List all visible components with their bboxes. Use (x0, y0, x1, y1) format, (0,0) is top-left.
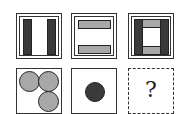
cell-r2c2 (71, 68, 117, 114)
cell-r1c1 (16, 13, 62, 59)
horizontal-grey-bar (78, 20, 111, 29)
grey-circle (38, 71, 59, 92)
cell-r2c1 (16, 68, 62, 114)
vertical-dark-bar (134, 19, 143, 55)
horizontal-grey-bar (135, 46, 168, 55)
vertical-dark-bar (47, 19, 56, 55)
horizontal-grey-bar (78, 45, 111, 54)
horizontal-grey-bar (135, 19, 168, 28)
grey-circle (19, 71, 40, 92)
cell-r1c2 (71, 13, 117, 59)
answer-cell[interactable]: ? (128, 68, 174, 114)
dark-circle (85, 82, 105, 102)
grey-circle (38, 91, 59, 112)
vertical-dark-bar (23, 19, 32, 55)
cell-r1c3 (128, 13, 174, 59)
question-mark: ? (129, 77, 173, 102)
vertical-dark-bar (160, 19, 169, 55)
